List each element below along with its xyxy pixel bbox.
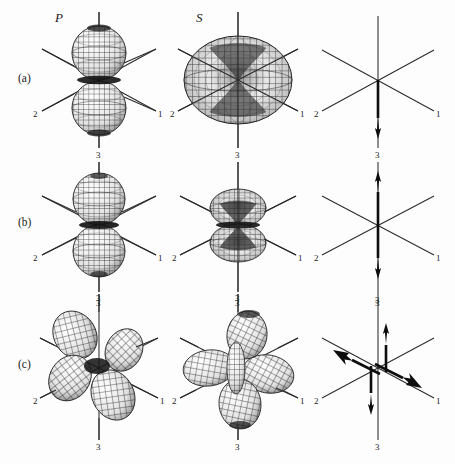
column-header-s: S [196, 10, 203, 25]
axis-label-3-c-p: 3 [96, 442, 101, 452]
axis-label-2-a-p: 2 [33, 109, 38, 119]
axis-label-3-top-c-p: 3 [96, 298, 101, 308]
radiation-pattern-figure: P S (a) (b) (c) [0, 0, 455, 464]
axis-label-1-b-p: 1 [158, 253, 163, 263]
axis-label-3-a-s: 3 [235, 150, 240, 160]
axis-label-1-b-force: 1 [436, 253, 441, 263]
axis-label-2-a-force: 2 [314, 109, 319, 119]
axis-label-2-c-s: 2 [172, 396, 177, 406]
lobe-center-c-s [227, 342, 245, 394]
axis-label-2-c-p: 2 [33, 396, 38, 406]
axis-label-3-top-c-s: 3 [235, 298, 240, 308]
origin-pinch-b-p [79, 221, 119, 229]
axis-label-3-a-force: 3 [375, 150, 380, 160]
axis-label-3-a-p: 3 [96, 150, 101, 160]
lobe-lower-b-p [73, 225, 125, 277]
lobe-upper-b-p [73, 173, 125, 225]
axis-label-3-c-s: 3 [235, 442, 240, 452]
axis-label-2-b-s: 2 [172, 253, 177, 263]
figure-canvas: P S (a) (b) (c) [0, 0, 455, 464]
axis-label-2-c-force: 2 [314, 396, 319, 406]
axis-label-2-b-force: 2 [314, 253, 319, 263]
row-label-c: (c) [18, 358, 31, 371]
axis-label-3-c-force: 3 [375, 442, 380, 452]
axis-label-3-top-c-force: 3 [375, 298, 380, 308]
row-label-b: (b) [18, 216, 32, 229]
axis-label-1-c-s: 1 [300, 396, 305, 406]
axis-label-1-a-s: 1 [300, 109, 305, 119]
axis-label-2-a-s: 2 [170, 109, 175, 119]
column-header-p: P [54, 10, 63, 25]
origin-pinch-a-p [77, 76, 121, 84]
axis-label-1-a-p: 1 [158, 109, 163, 119]
axis-label-1-c-p: 1 [160, 396, 165, 406]
axis-label-1-c-force: 1 [436, 396, 441, 406]
row-label-a: (a) [18, 72, 31, 85]
axis-label-1-a-force: 1 [436, 109, 441, 119]
axis-label-2-b-p: 2 [33, 253, 38, 263]
axis-label-1-b-s: 1 [298, 253, 303, 263]
origin-pinch-c-p [84, 358, 110, 374]
